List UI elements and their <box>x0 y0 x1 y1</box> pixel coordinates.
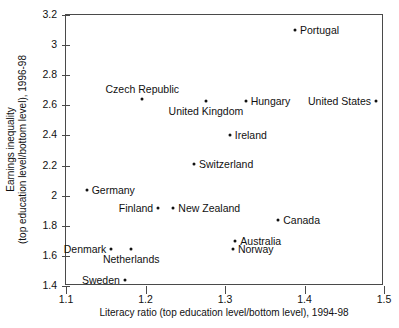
chart-page: Earnings inequality (top education level… <box>0 0 399 328</box>
x-axis-title: Literacy ratio (top education level/bott… <box>65 307 383 318</box>
y-tick-label: 3 <box>51 38 57 51</box>
data-point[interactable] <box>277 218 280 221</box>
y-tick-label: 2 <box>51 189 57 202</box>
y-tick: 2.8 <box>62 75 70 76</box>
data-point[interactable] <box>85 188 88 191</box>
x-tick: 1.1 <box>66 286 67 294</box>
data-point-label: Norway <box>238 243 274 255</box>
x-tick: 1.2 <box>146 286 147 294</box>
data-point-label: New Zealand <box>178 202 240 214</box>
data-point-label: Switzerland <box>199 158 253 170</box>
data-point[interactable] <box>157 206 160 209</box>
x-tick: 1.3 <box>225 286 226 294</box>
data-point[interactable] <box>375 99 378 102</box>
data-point-label: Ireland <box>235 129 267 141</box>
data-point[interactable] <box>172 206 175 209</box>
data-point[interactable] <box>234 239 237 242</box>
data-point-label: Finland <box>119 202 153 214</box>
y-tick: 3 <box>62 45 70 46</box>
data-point[interactable] <box>110 248 113 251</box>
data-point-label: Germany <box>92 184 135 196</box>
y-tick-label: 2.6 <box>42 98 57 111</box>
y-tick: 3.2 <box>62 15 70 16</box>
y-tick-label: 2.2 <box>42 159 57 172</box>
x-tick: 1.5 <box>384 286 385 294</box>
y-tick-label: 1.6 <box>42 249 57 262</box>
data-point[interactable] <box>228 134 231 137</box>
data-point[interactable] <box>130 248 133 251</box>
data-point-label: Portugal <box>300 24 339 36</box>
y-tick: 2.4 <box>62 135 70 136</box>
y-tick: 1.8 <box>62 226 70 227</box>
data-point-label: Sweden <box>82 274 120 286</box>
x-tick-label: 1.2 <box>138 293 153 306</box>
x-tick: 1.4 <box>305 286 306 294</box>
data-point-label: Hungary <box>251 95 291 107</box>
y-tick: 2 <box>62 196 70 197</box>
y-axis-title: Earnings inequality (top education level… <box>2 14 32 285</box>
y-tick-label: 2.4 <box>42 128 57 141</box>
data-point-label: United Kingdom <box>169 105 244 117</box>
y-tick: 2.6 <box>62 105 70 106</box>
x-tick-label: 1.3 <box>218 293 233 306</box>
x-tick-label: 1.5 <box>377 293 392 306</box>
y-tick-label: 1.4 <box>42 279 57 292</box>
data-point[interactable] <box>231 248 234 251</box>
plot-area: 1.41.61.822.22.42.62.833.2 1.11.21.31.41… <box>65 14 383 285</box>
data-point[interactable] <box>192 163 195 166</box>
data-point-label: Netherlands <box>103 253 160 265</box>
x-tick-label: 1.1 <box>59 293 74 306</box>
data-point-label: Denmark <box>64 243 107 255</box>
data-point-label: Canada <box>283 214 320 226</box>
y-axis-title-line-2: (top education level/bottom level), 1996… <box>17 55 28 244</box>
y-tick-label: 1.8 <box>42 219 57 232</box>
y-tick-label: 3.2 <box>42 8 57 21</box>
y-tick: 2.2 <box>62 166 70 167</box>
data-point-label: Czech Republic <box>106 83 180 95</box>
y-tick-label: 2.8 <box>42 68 57 81</box>
y-axis-title-line-1: Earnings inequality <box>5 107 16 192</box>
data-point[interactable] <box>293 29 296 32</box>
y-tick: 1.6 <box>62 256 70 257</box>
data-point[interactable] <box>244 99 247 102</box>
data-point[interactable] <box>123 278 126 281</box>
data-point[interactable] <box>204 99 207 102</box>
data-point-label: United States <box>308 95 371 107</box>
x-tick-label: 1.4 <box>297 293 312 306</box>
data-point[interactable] <box>141 98 144 101</box>
